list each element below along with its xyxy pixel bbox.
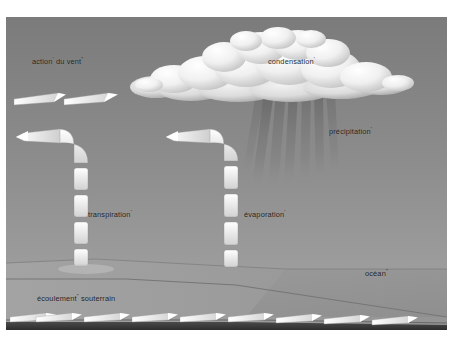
diagram-canvas: action' du vent" condensation' précipita… [6, 17, 447, 330]
label-groundwater-text: écoulement [37, 294, 77, 303]
label-wind-action: action' du vent" [32, 58, 83, 65]
label-evaporation: évaporation' [244, 211, 285, 218]
label-condensation: condensation' [268, 58, 315, 65]
label-precipitation: précipitation' [329, 128, 372, 135]
label-condensation-text: condensation [268, 57, 314, 66]
label-transpiration-text: transpiration [88, 210, 131, 219]
label-transpiration: transpiration' [88, 211, 132, 218]
label-condensation-sup: ' [314, 56, 315, 62]
label-ocean: océan" [365, 270, 388, 277]
label-evaporation-sup: ' [284, 209, 285, 215]
label-wind-text: action [32, 57, 53, 66]
label-groundwater-text2: souterrain [79, 294, 116, 303]
label-wind-sup2: " [81, 56, 83, 62]
label-ocean-text: océan [365, 269, 386, 278]
label-precipitation-sup: ' [371, 126, 372, 132]
label-precipitation-text: précipitation [329, 127, 371, 136]
label-evaporation-text: évaporation [244, 210, 284, 219]
label-ocean-sup: " [386, 268, 388, 274]
label-groundwater-flow: écoulement" souterrain [37, 295, 115, 302]
label-wind-text2: du vent [54, 57, 82, 66]
label-transpiration-sup: ' [131, 209, 132, 215]
water-cycle-figure: action' du vent" condensation' précipita… [0, 0, 465, 357]
